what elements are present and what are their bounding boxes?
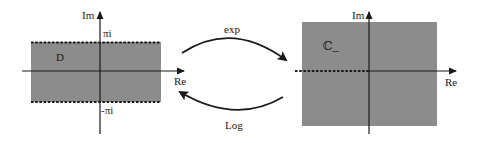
region-d-label: D	[56, 51, 64, 63]
exp-arrow	[182, 38, 286, 60]
log-arrow	[180, 92, 283, 110]
mapping-arrows: exp Log	[180, 23, 286, 131]
strip-region-d	[31, 42, 161, 102]
left-re-label: Re	[174, 75, 186, 87]
log-label: Log	[225, 119, 243, 131]
right-im-label: Im	[352, 9, 365, 21]
exp-label: exp	[224, 23, 240, 35]
right-plane: Im Re ℂ_	[295, 9, 457, 134]
complex-map-diagram: Im Re πi -πi D exp Log Im Re ℂ_	[0, 0, 479, 143]
upper-bound-label: πi	[103, 27, 112, 39]
lower-bound-label: -πi	[101, 104, 113, 116]
slit-plane-label: ℂ_	[323, 39, 340, 53]
left-plane: Im Re πi -πi D	[22, 9, 186, 134]
left-im-label: Im	[82, 9, 95, 21]
right-re-label: Re	[445, 76, 457, 88]
